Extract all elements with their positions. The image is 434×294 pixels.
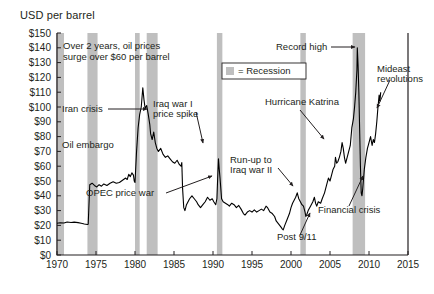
- y-tick-label: $110: [29, 87, 51, 98]
- annotation-surge: Over 2 years, oil prices: [63, 40, 160, 51]
- chart-container: USD per barrel $0$10$20$30$40$50$60$70$8…: [0, 0, 434, 294]
- annotation-opec-price-war: OPEC price war: [86, 187, 154, 198]
- y-tick-label: $60: [34, 161, 51, 172]
- y-tick-label: $100: [29, 102, 52, 113]
- x-tick-label: 1980: [124, 259, 147, 270]
- y-tick-label: $20: [34, 220, 51, 231]
- annotation-run-up-iraq-2: Iraq war II: [230, 164, 272, 175]
- annotation-iran-crisis: Iran crisis: [62, 103, 103, 114]
- annotation-iraq-war-1: price spike: [153, 108, 198, 119]
- x-tick-label: 1995: [241, 259, 264, 270]
- annotation-oil-embargo: Oil embargo: [62, 139, 114, 150]
- legend-swatch: [226, 67, 234, 75]
- annotation-record-high: Record high: [276, 41, 327, 52]
- annotation-hurricane-katrina: Hurricane Katrina: [265, 96, 340, 107]
- legend-label: = Recession: [238, 65, 291, 76]
- recession-band: [353, 33, 365, 255]
- y-tick-label: $70: [34, 146, 51, 157]
- y-tick-label: $80: [34, 131, 51, 142]
- y-tick-label: $10: [34, 235, 51, 246]
- oil-price-line-chart: $0$10$20$30$40$50$60$70$80$90$100$110$12…: [0, 0, 434, 294]
- annotation-surge: surge over $60 per barrel: [63, 51, 170, 62]
- x-tick-label: 1975: [85, 259, 108, 270]
- annotation-arrow: [278, 168, 293, 186]
- x-tick-label: 2015: [397, 259, 420, 270]
- annotation-arrow: [166, 176, 212, 193]
- x-tick-label: 2010: [358, 259, 381, 270]
- annotation-mideast-revolutions: revolutions: [377, 73, 423, 84]
- x-tick-label: 1970: [46, 259, 69, 270]
- annotation-post-911: Post 9/11: [277, 231, 316, 242]
- y-tick-label: $140: [29, 42, 52, 53]
- y-tick-label: $50: [34, 176, 51, 187]
- y-tick-label: $40: [34, 190, 51, 201]
- annotation-arrow: [377, 80, 390, 108]
- annotation-arrow: [196, 112, 203, 143]
- x-tick-label: 2005: [319, 259, 342, 270]
- y-tick-label: $130: [29, 57, 52, 68]
- recession-band: [217, 33, 222, 255]
- y-tick-label: $150: [29, 28, 52, 39]
- y-tick-label: $120: [29, 72, 52, 83]
- x-tick-label: 2000: [280, 259, 303, 270]
- x-tick-label: 1985: [163, 259, 186, 270]
- x-tick-label: 1990: [202, 259, 225, 270]
- y-tick-label: $30: [34, 205, 51, 216]
- y-tick-label: $90: [34, 116, 51, 127]
